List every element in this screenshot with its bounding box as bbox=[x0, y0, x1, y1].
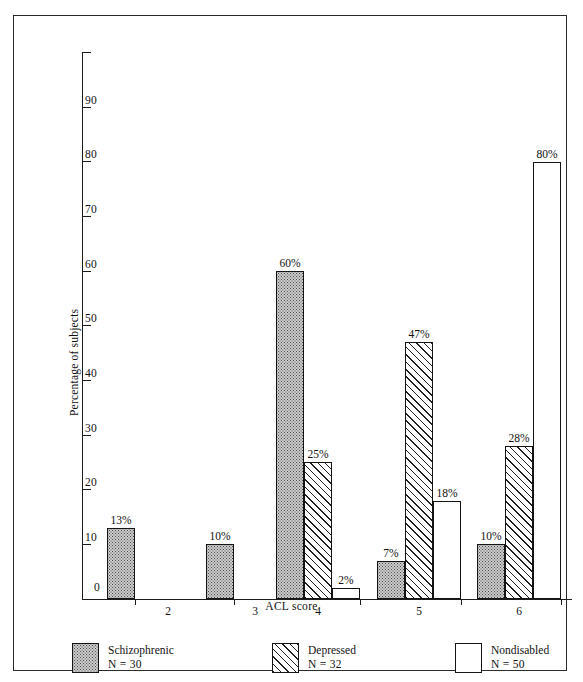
legend-item-schizophrenic: Schizophrenic N = 30 bbox=[72, 643, 174, 673]
y-tick-20 bbox=[82, 489, 91, 490]
y-tick-label-40: 40 bbox=[85, 368, 97, 380]
bar-schizophrenic-3: 10% bbox=[206, 544, 234, 599]
y-tick-90 bbox=[82, 107, 91, 108]
y-tick-label-60: 60 bbox=[85, 259, 97, 271]
y-axis-title: Percentage of subjects bbox=[68, 309, 80, 416]
bar-depressed-5: 47% bbox=[405, 342, 433, 599]
y-tick-70 bbox=[82, 216, 91, 217]
y-tick-label-50: 50 bbox=[85, 313, 97, 325]
y-tick-60 bbox=[82, 271, 91, 272]
legend-swatch-depressed bbox=[272, 643, 299, 673]
legend-name-depressed: Depressed bbox=[308, 643, 356, 657]
y-tick-label-30: 30 bbox=[85, 423, 97, 435]
bar-value-depressed-6: 28% bbox=[508, 432, 529, 444]
y-tick-label-10: 10 bbox=[85, 532, 97, 544]
legend-n-nondisabled: N = 50 bbox=[491, 657, 549, 671]
y-tick-label-90: 90 bbox=[85, 95, 97, 107]
legend-label-nondisabled: Nondisabled N = 50 bbox=[491, 643, 549, 671]
y-tick-10 bbox=[82, 544, 91, 545]
bar-value-depressed-5: 47% bbox=[408, 328, 429, 340]
bar-value-schizophrenic-6: 10% bbox=[480, 530, 501, 542]
bar-nondisabled-6: 80% bbox=[533, 162, 561, 599]
legend-swatch-schizophrenic bbox=[72, 643, 99, 673]
legend-label-depressed: Depressed N = 32 bbox=[308, 643, 356, 671]
legend-item-depressed: Depressed N = 32 bbox=[272, 643, 356, 673]
legend-n-schizophrenic: N = 30 bbox=[108, 657, 174, 671]
bar-schizophrenic-5: 7% bbox=[377, 561, 405, 599]
y-tick-label-0: 0 bbox=[94, 582, 100, 594]
legend-name-nondisabled: Nondisabled bbox=[491, 643, 549, 657]
bar-value-depressed-4: 25% bbox=[307, 448, 328, 460]
legend-n-depressed: N = 32 bbox=[308, 657, 356, 671]
bar-depressed-6: 28% bbox=[505, 446, 533, 599]
bar-value-schizophrenic-3: 10% bbox=[209, 530, 230, 542]
bar-depressed-4: 25% bbox=[304, 462, 332, 599]
y-tick-80 bbox=[82, 161, 91, 162]
bar-nondisabled-5: 18% bbox=[433, 501, 461, 599]
bar-schizophrenic-2: 13% bbox=[107, 528, 135, 599]
legend-item-nondisabled: Nondisabled N = 50 bbox=[455, 643, 549, 673]
chart-legend: Schizophrenic N = 30 Depressed N = 32 No… bbox=[72, 643, 572, 682]
y-axis-top-cap bbox=[82, 52, 91, 53]
legend-swatch-nondisabled bbox=[455, 643, 482, 673]
bar-value-nondisabled-5: 18% bbox=[436, 487, 457, 499]
bar-value-schizophrenic-5: 7% bbox=[383, 547, 398, 559]
x-axis-title: ACL score bbox=[0, 600, 583, 612]
figure-frame: 90 80 70 60 50 40 30 20 10 0 13% 10% 60% bbox=[13, 15, 567, 671]
y-tick-40 bbox=[82, 380, 91, 381]
bar-value-schizophrenic-2: 13% bbox=[110, 514, 131, 526]
bar-schizophrenic-6: 10% bbox=[477, 544, 505, 599]
legend-name-schizophrenic: Schizophrenic bbox=[108, 643, 174, 657]
bar-value-nondisabled-4: 2% bbox=[338, 574, 353, 586]
y-tick-30 bbox=[82, 435, 91, 436]
legend-label-schizophrenic: Schizophrenic N = 30 bbox=[108, 643, 174, 671]
bar-value-nondisabled-6: 80% bbox=[536, 148, 557, 160]
y-tick-label-20: 20 bbox=[85, 477, 97, 489]
bar-schizophrenic-4: 60% bbox=[276, 271, 304, 599]
plot-area: 90 80 70 60 50 40 30 20 10 0 13% 10% 60% bbox=[82, 52, 572, 599]
y-tick-label-70: 70 bbox=[85, 204, 97, 216]
y-tick-label-80: 80 bbox=[85, 149, 97, 161]
y-tick-50 bbox=[82, 325, 91, 326]
bar-nondisabled-4: 2% bbox=[332, 588, 360, 599]
bar-value-schizophrenic-4: 60% bbox=[279, 257, 300, 269]
